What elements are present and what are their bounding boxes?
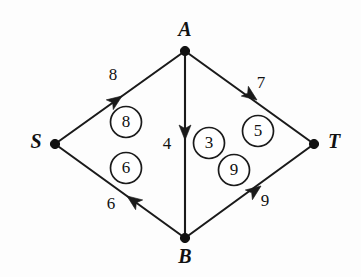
node-label-b: B <box>177 245 191 267</box>
flow-value-a-b: 3 <box>205 133 214 152</box>
node-dot-a[interactable] <box>180 46 189 55</box>
node-label-a: A <box>176 18 191 40</box>
node-dot-t[interactable] <box>309 139 318 148</box>
edges-layer <box>55 51 314 238</box>
flow-value-b-t: 9 <box>230 160 239 179</box>
graph-canvas: S A B T 8 6 4 7 9 8 6 3 <box>0 0 361 277</box>
flow-markers-layer: 8 6 3 5 9 <box>111 107 274 186</box>
capacity-label-a-t: 7 <box>257 73 266 92</box>
node-dot-b[interactable] <box>180 233 189 242</box>
node-label-t: T <box>328 130 341 152</box>
flow-marker-b-t[interactable]: 9 <box>219 155 250 186</box>
capacity-label-a-b: 4 <box>163 134 172 153</box>
flow-marker-s-b[interactable]: 6 <box>111 153 142 184</box>
flow-value-s-b: 6 <box>122 158 131 177</box>
node-dot-s[interactable] <box>50 139 59 148</box>
flow-value-s-a: 8 <box>122 112 131 131</box>
node-label-s: S <box>30 130 41 152</box>
flow-marker-s-a[interactable]: 8 <box>111 107 142 138</box>
capacity-label-s-b: 6 <box>107 194 116 213</box>
flow-network-diagram: S A B T 8 6 4 7 9 8 6 3 <box>0 0 361 277</box>
flow-marker-a-t[interactable]: 5 <box>243 116 274 147</box>
arrowhead-s-b <box>123 191 142 210</box>
capacity-label-b-t: 9 <box>261 191 270 210</box>
flow-value-a-t: 5 <box>254 121 263 140</box>
flow-marker-a-b[interactable]: 3 <box>194 128 225 159</box>
capacity-label-s-a: 8 <box>109 65 118 84</box>
